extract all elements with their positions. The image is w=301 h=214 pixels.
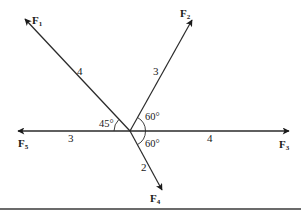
label-f1: F1 [32,14,43,28]
magnitude-f3: 4 [207,132,213,144]
label-f3: F3 [279,138,290,152]
force-diagram: F1 F2 F3 F4 F5 4 3 4 2 3 45° 60° 60° [0,0,301,214]
angle-arc-45 [114,120,119,131]
label-f2: F2 [180,7,191,21]
label-f4: F4 [150,192,161,206]
angle-label-60-lower: 60° [145,138,160,149]
magnitude-f1: 4 [77,65,83,77]
magnitude-f5: 3 [68,132,74,144]
angle-label-60-upper: 60° [145,111,160,122]
magnitude-f4: 2 [141,161,147,173]
angle-label-45: 45° [99,118,114,129]
magnitude-f2: 3 [153,65,159,77]
force-vector-f2 [130,20,192,131]
label-f5: F5 [18,137,29,151]
